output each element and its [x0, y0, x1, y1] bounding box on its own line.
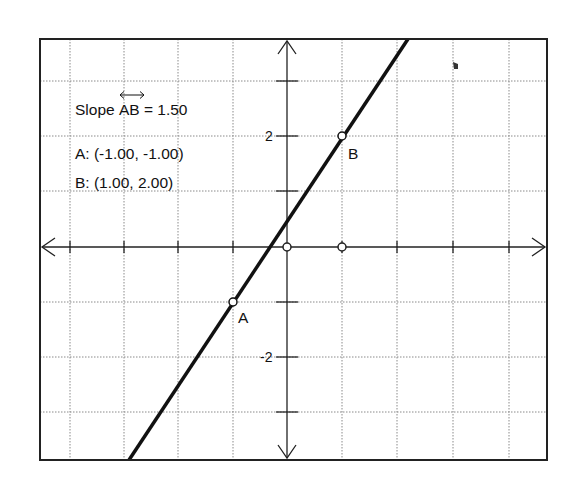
cursor-icon	[453, 62, 458, 69]
point-b[interactable]	[338, 132, 346, 140]
y-tick-label-2: 2	[265, 129, 273, 143]
point-a-coordinates[interactable]: A: (-1.00, -1.00)	[75, 146, 184, 162]
point-b-label[interactable]: B	[348, 146, 358, 162]
point-b-coordinates[interactable]: B: (1.00, 2.00)	[75, 175, 173, 191]
segment-label: AB	[119, 101, 140, 118]
point-a-label[interactable]: A	[238, 310, 248, 326]
slope-prefix: Slope	[75, 101, 119, 118]
slope-measurement[interactable]: Slope AB = 1.50	[75, 102, 187, 118]
slope-value: = 1.50	[140, 101, 188, 118]
y-tick-label-neg-2: -2	[260, 350, 272, 364]
coordinate-plane	[0, 0, 573, 485]
x-axis	[42, 238, 545, 256]
point-a[interactable]	[229, 298, 237, 306]
point-unit-x[interactable]	[338, 243, 346, 251]
segment-ab: AB	[119, 102, 140, 118]
double-arrow-icon	[118, 90, 146, 100]
point-origin[interactable]	[283, 243, 291, 251]
